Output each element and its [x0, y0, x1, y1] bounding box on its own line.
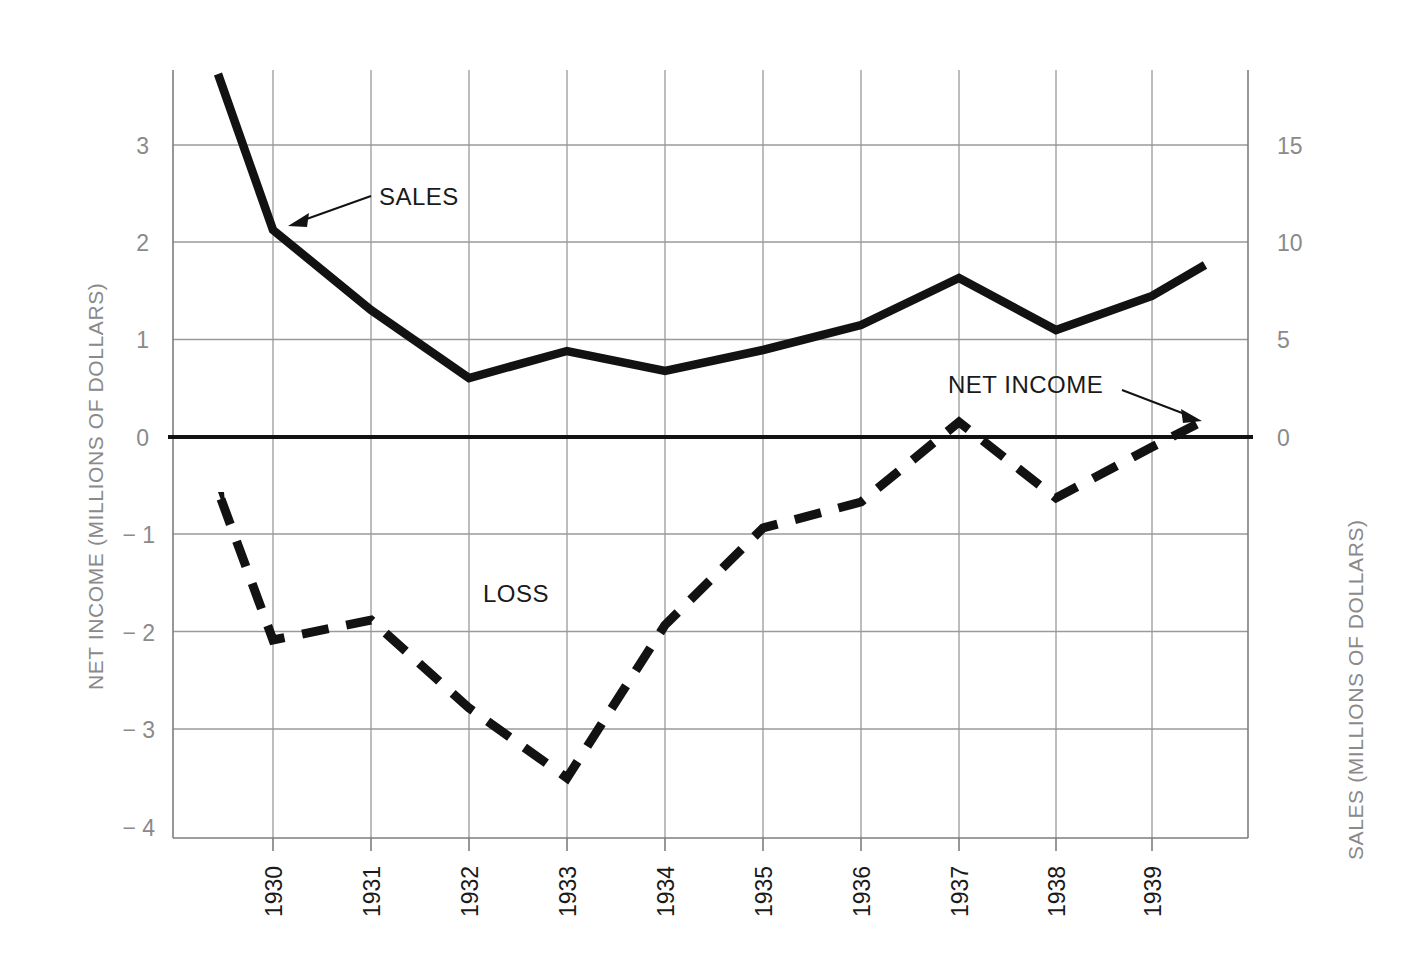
annotation-sales-label: SALES	[379, 183, 459, 210]
x-tick-label: 1938	[1044, 866, 1070, 917]
x-tick-label: 1935	[751, 866, 777, 917]
left-axis-title: NET INCOME (MILLIONS OF DOLLARS)	[84, 283, 107, 690]
x-tick-label: 1930	[261, 866, 287, 917]
left-tick-label: − 1	[122, 522, 155, 548]
sales-net-income-chart: 3 2 1 0 − 1 − 2 − 3 − 4 15 10 5 0 1930 1…	[0, 0, 1420, 969]
right-axis-title: SALES (MILLIONS OF DOLLARS)	[1344, 519, 1367, 860]
annotation-loss-label: LOSS	[483, 580, 549, 607]
x-tick-label: 1932	[457, 866, 483, 917]
right-tick-label: 0	[1277, 425, 1290, 451]
left-tick-label: − 2	[122, 620, 155, 646]
left-tick-label: − 3	[122, 717, 155, 743]
left-tick-label: − 4	[122, 815, 155, 841]
x-tick-label: 1939	[1140, 866, 1166, 917]
left-tick-label: 2	[136, 230, 149, 256]
right-tick-label: 15	[1277, 133, 1303, 159]
right-tick-label: 5	[1277, 327, 1290, 353]
x-tick-label: 1933	[555, 866, 581, 917]
x-tick-label: 1931	[359, 866, 385, 917]
annotation-net-income-label: NET INCOME	[948, 371, 1103, 398]
x-tick-label: 1937	[947, 866, 973, 917]
chart-canvas: 3 2 1 0 − 1 − 2 − 3 − 4 15 10 5 0 1930 1…	[0, 0, 1420, 969]
x-tick-label: 1936	[849, 866, 875, 917]
left-tick-label: 3	[136, 133, 149, 159]
right-tick-label: 10	[1277, 230, 1303, 256]
left-tick-label: 1	[136, 327, 149, 353]
x-tick-label: 1934	[653, 866, 679, 917]
left-tick-label: 0	[136, 425, 149, 451]
